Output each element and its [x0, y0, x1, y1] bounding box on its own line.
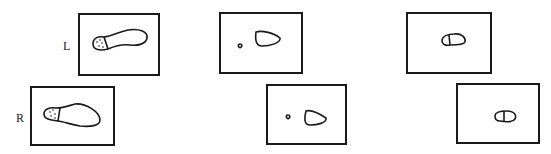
divided-contact-icon — [495, 111, 516, 122]
toe-contact-icon — [238, 44, 242, 48]
toe-contact-icon — [286, 115, 290, 119]
divided-contact-icon — [442, 34, 465, 45]
heel-contact-icon — [256, 31, 280, 46]
footprint-drawings — [0, 0, 551, 154]
heel-contact-icon — [305, 111, 326, 125]
footprint-right-full-icon — [44, 104, 100, 126]
footprint-left-full-icon — [93, 29, 147, 49]
